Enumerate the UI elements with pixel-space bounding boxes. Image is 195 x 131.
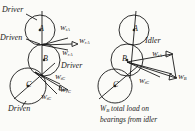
right-gear-b-label: B [122, 55, 127, 63]
annotation-driver-mid: Driver [61, 62, 82, 70]
left-arrowhead-wta [72, 42, 78, 47]
left-gear-b-label: B [43, 55, 48, 63]
caption-line2: bearings from idler [100, 115, 157, 124]
force-label-wrc-right: WrC [60, 87, 71, 95]
right-vector-wta [127, 54, 172, 62]
right-center-line-bc [99, 66, 138, 99]
left-gear-c-label: C [26, 81, 31, 89]
right-gear-a-label: A [133, 25, 138, 33]
left-leader-driver-top [26, 14, 37, 20]
force-label-wra-right: WrA [79, 38, 89, 46]
annotation-driven-bottom: Driven [8, 105, 30, 113]
force-label-wta-right: WtA [152, 51, 162, 59]
annotation-idler: Idler [145, 37, 161, 45]
force-label-wtc-upper: WtC [55, 74, 65, 82]
annotation-driven-left: Driven [0, 34, 22, 42]
force-label-wta-upper: WtA [60, 25, 70, 33]
figure-caption: WB total load on bearings from idler [100, 104, 157, 125]
figure-canvas: A B C Driver Driven Driver Driven WtA Wr… [0, 0, 195, 131]
right-vector-closing [172, 54, 176, 78]
force-label-wtc-right: WtC [139, 78, 149, 86]
force-label-wtc-lower: WtC [41, 94, 51, 102]
force-label-wb-resultant: WB [178, 74, 187, 82]
force-label-wra-lower: WrA [62, 50, 72, 58]
caption-line1: total load on [109, 104, 149, 113]
left-gear-a-label: A [39, 25, 44, 33]
annotation-driver-top: Driver [2, 6, 23, 14]
right-gear-c-label: C [113, 81, 118, 89]
